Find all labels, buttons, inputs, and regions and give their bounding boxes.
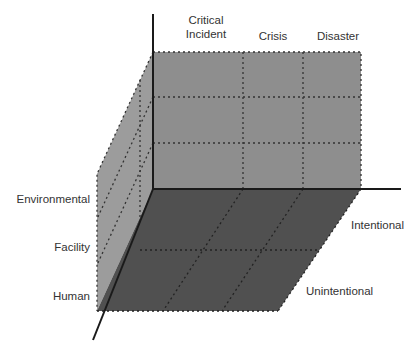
- label-incident: Incident: [176, 27, 236, 41]
- label-disaster: Disaster: [308, 29, 368, 43]
- label-critical: Critical: [176, 13, 236, 27]
- label-critical-incident: Critical Incident: [176, 13, 236, 41]
- back-wall: [153, 52, 361, 189]
- label-unintentional: Unintentional: [306, 284, 373, 298]
- label-facility: Facility: [4, 240, 90, 254]
- label-human: Human: [4, 289, 90, 303]
- label-environmental: Environmental: [4, 192, 90, 206]
- label-crisis: Crisis: [253, 29, 293, 43]
- label-intentional: Intentional: [351, 218, 404, 232]
